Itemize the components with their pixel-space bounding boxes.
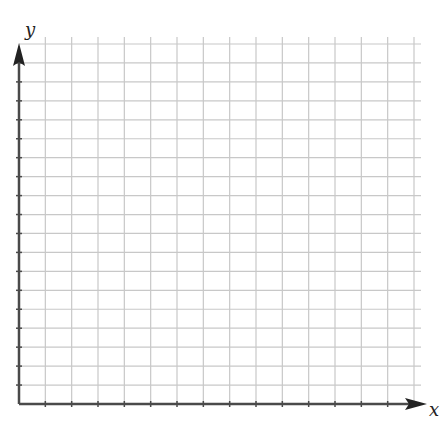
y-axis-label: y (24, 19, 36, 40)
coordinate-grid: x y (0, 0, 443, 430)
x-axis-label: x (429, 399, 439, 420)
grid-lines (19, 37, 421, 404)
